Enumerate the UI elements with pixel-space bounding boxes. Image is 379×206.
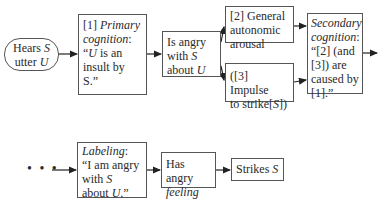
node-has-angry-feeling: Has angry feeling	[161, 152, 216, 188]
arrow-angry-arousal	[221, 27, 224, 42]
text: utter	[15, 55, 40, 69]
arrow-angry-impulse	[221, 66, 224, 80]
node-general-arousal: [2] General autonomic arousal	[225, 6, 294, 43]
text: about	[82, 186, 112, 200]
text: about	[167, 63, 197, 77]
var-s: S	[272, 162, 278, 176]
text: insult by	[83, 60, 125, 74]
text: S.”	[83, 74, 98, 88]
var-s: S	[191, 49, 197, 63]
continuation-dots: • • •	[27, 161, 59, 177]
text: with	[82, 172, 106, 186]
text: “[2] (and	[311, 44, 355, 58]
arrow-impulse-secondary	[294, 80, 306, 82]
text: Strikes	[236, 162, 272, 176]
tag: [1]	[83, 18, 100, 32]
var-u: U	[40, 55, 49, 69]
text: ([3] Impulse	[230, 69, 269, 97]
text: ])	[279, 97, 287, 111]
text: caused by	[311, 72, 359, 86]
label: feeling	[166, 185, 199, 199]
text: with	[167, 49, 191, 63]
text: is an	[97, 46, 122, 60]
text: arousal	[230, 37, 265, 51]
colon: :	[356, 30, 359, 44]
node-impulse-to-strike: ([3] Impulse to strike[S])	[225, 63, 294, 102]
text: to strike[	[230, 97, 273, 111]
text: [2] General	[230, 9, 285, 23]
node-secondary-cognition: Secondary cognition: “[2] (and [3]) are …	[307, 13, 363, 94]
node-strikes: Strikes S	[231, 158, 284, 181]
text: Is angry	[167, 35, 206, 49]
node-is-angry: Is angry with S about U	[162, 31, 221, 77]
text: “I am angry	[82, 158, 139, 172]
label: Primary	[100, 18, 140, 32]
var-u: U	[197, 63, 206, 77]
var-s: S	[44, 41, 50, 55]
colon: :	[125, 144, 128, 158]
text: .”	[120, 186, 128, 200]
text: [3]) are	[311, 58, 347, 72]
node-labeling: Labeling: “I am angry with S about U.”	[77, 142, 147, 198]
label: cognition	[311, 30, 356, 44]
node-primary-cognition: [1] Primary cognition: “U is an insult b…	[78, 14, 147, 95]
text: [1].”	[311, 86, 333, 100]
label: Labeling	[82, 144, 125, 158]
colon: :	[128, 32, 131, 46]
text: Hears	[13, 41, 44, 55]
text: Has angry	[166, 157, 193, 185]
node-hears-utterance: Hears S utter U	[4, 38, 59, 71]
label: cognition	[83, 32, 128, 46]
label: Secondary	[311, 16, 362, 30]
var-u: U	[88, 46, 97, 60]
text: autonomic	[230, 23, 281, 37]
var-s: S	[106, 172, 112, 186]
